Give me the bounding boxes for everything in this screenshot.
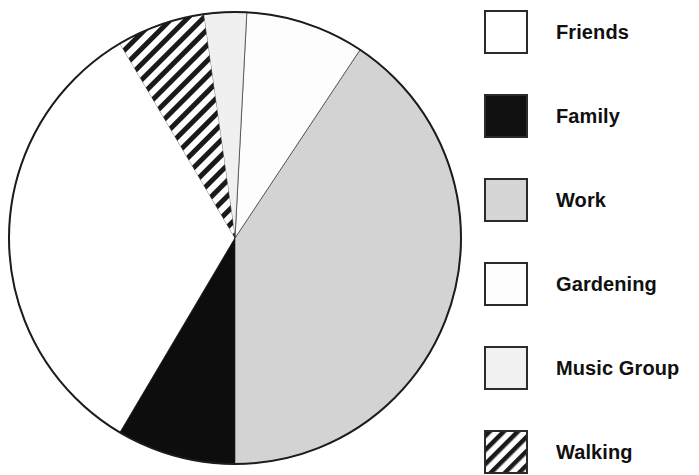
legend-item-gardening[interactable]: Gardening xyxy=(484,261,657,307)
legend-item-walking[interactable]: Walking xyxy=(484,429,633,475)
gray-swatch xyxy=(484,178,528,222)
legend-item-label: Gardening xyxy=(556,273,657,296)
legend-item-family[interactable]: Family xyxy=(484,93,620,139)
hatched-swatch xyxy=(484,430,528,474)
pie-chart-plot-area xyxy=(0,0,466,475)
legend-item-friends[interactable]: Friends xyxy=(484,9,629,55)
legend-item-label: Friends xyxy=(556,21,629,44)
legend-item-label: Music Group xyxy=(556,357,679,380)
legend-item-work[interactable]: Work xyxy=(484,177,606,223)
legend-item-label: Family xyxy=(556,105,620,128)
chart-legend: FriendsFamilyWorkGardeningMusic GroupWal… xyxy=(484,0,699,475)
legend-item-music-group[interactable]: Music Group xyxy=(484,345,679,391)
legend-item-label: Walking xyxy=(556,441,633,464)
black-swatch xyxy=(484,94,528,138)
white-swatch xyxy=(484,10,528,54)
pie-slices-group xyxy=(9,12,461,464)
pie-chart-svg xyxy=(0,0,466,475)
legend-item-label: Work xyxy=(556,189,606,212)
light-gray-swatch xyxy=(484,346,528,390)
white-swatch xyxy=(484,262,528,306)
pie-chart-figure: FriendsFamilyWorkGardeningMusic GroupWal… xyxy=(0,0,699,475)
